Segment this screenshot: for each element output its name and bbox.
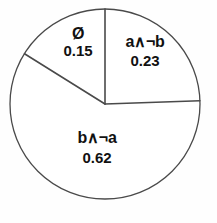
pie-slice-label-a-and-not-b: a∧¬b 0.23	[111, 33, 179, 70]
pie-slice-value-a-and-not-b: 0.23	[111, 53, 179, 70]
pie-slice-value-empty-set: 0.15	[46, 43, 110, 60]
pie-slice-label-empty-set: Ø 0.15	[46, 26, 110, 60]
pie-slice-value-b-and-not-a: 0.62	[51, 150, 143, 167]
pie-slice-name-a-and-not-b: a∧¬b	[111, 33, 179, 51]
pie-slice-name-empty-set: Ø	[46, 26, 110, 42]
pie-slice-label-b-and-not-a: b∧¬a 0.62	[51, 129, 143, 167]
pie-chart-figure: Ø 0.15 a∧¬b 0.23 b∧¬a 0.62	[0, 0, 217, 223]
pie-slice-name-b-and-not-a: b∧¬a	[51, 129, 143, 147]
